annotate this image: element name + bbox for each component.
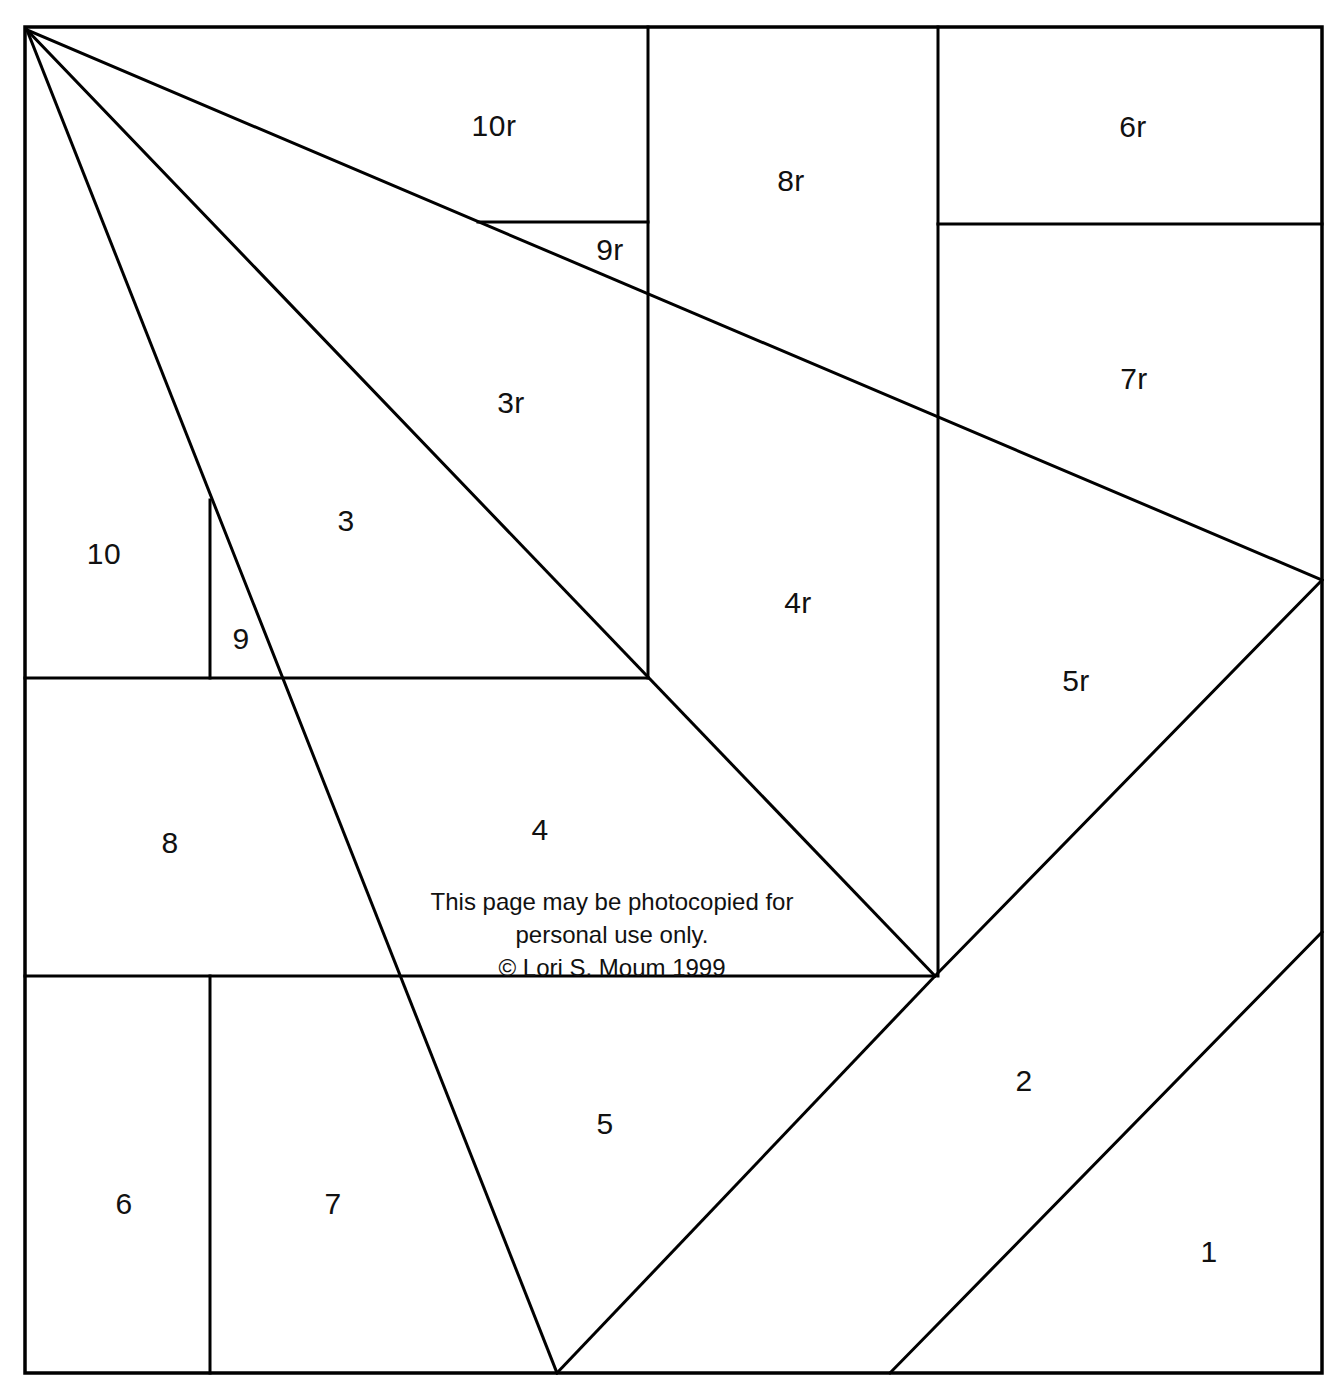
section-label-5: 5 bbox=[596, 1107, 613, 1141]
pattern-canvas: 1233r44r55r66r77r88r99r1010r This page m… bbox=[0, 0, 1340, 1389]
section-label-1: 1 bbox=[1200, 1235, 1217, 1269]
section-label-6r: 6r bbox=[1119, 110, 1147, 144]
section-label-3r: 3r bbox=[497, 386, 525, 420]
copyright-notice: This page may be photocopied for persona… bbox=[431, 885, 794, 984]
copyright-line-2: personal use only. bbox=[431, 918, 794, 951]
section-label-10r: 10r bbox=[472, 109, 517, 143]
copyright-line-1: This page may be photocopied for bbox=[431, 885, 794, 918]
pattern-line-drawing bbox=[0, 0, 1340, 1389]
section-label-3: 3 bbox=[337, 504, 354, 538]
section-label-2: 2 bbox=[1015, 1064, 1032, 1098]
copyright-line-3: © Lori S. Moum 1999 bbox=[431, 952, 794, 985]
section-label-10: 10 bbox=[87, 537, 121, 571]
section-label-8r: 8r bbox=[777, 164, 805, 198]
section-label-9: 9 bbox=[232, 622, 249, 656]
seam-line-diagonal-f-lower-right bbox=[890, 932, 1322, 1373]
section-label-4: 4 bbox=[531, 813, 548, 847]
section-label-7: 7 bbox=[324, 1187, 341, 1221]
seam-line-diagonal-e-apex-to-right-edge bbox=[935, 580, 1322, 976]
section-label-9r: 9r bbox=[596, 233, 624, 267]
section-label-7r: 7r bbox=[1120, 362, 1148, 396]
section-label-6: 6 bbox=[115, 1187, 132, 1221]
seam-line-diagonal-d-apex-to-bottom bbox=[557, 976, 935, 1373]
section-label-5r: 5r bbox=[1062, 664, 1090, 698]
pattern-seam-lines bbox=[25, 27, 1322, 1373]
section-label-4r: 4r bbox=[784, 586, 812, 620]
seam-line-diagonal-c-topleft-to-bottom bbox=[27, 30, 557, 1373]
section-label-8: 8 bbox=[161, 826, 178, 860]
